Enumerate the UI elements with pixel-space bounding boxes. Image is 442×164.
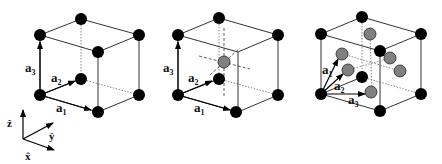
label-a2: a2 [188, 70, 199, 87]
label-a2: a2 [51, 70, 62, 87]
panel-face-centered-cubic: a1 a2 a3 [315, 11, 427, 117]
lattice-diagram: a3 a2 a1 ẑ ŷ x̂ [0, 0, 442, 164]
label-a3: a3 [163, 60, 174, 77]
x-axis-label: x̂ [25, 150, 31, 162]
label-a3: a3 [25, 60, 36, 77]
coordinate-axes: ẑ ŷ x̂ [7, 110, 55, 162]
body-center-atom [218, 56, 230, 68]
y-axis-label: ŷ [49, 130, 55, 142]
panel-simple-cubic: a3 a2 a1 [25, 13, 145, 118]
panel-body-centered-cubic: a3 a2 a1 [163, 12, 284, 118]
label-a2: a2 [334, 78, 345, 95]
label-a1: a1 [322, 62, 333, 79]
z-axis-label: ẑ [7, 117, 12, 129]
